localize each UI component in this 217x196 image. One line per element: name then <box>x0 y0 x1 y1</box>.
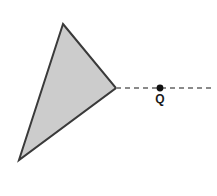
shaded-triangle <box>19 24 116 160</box>
figure-canvas: Q <box>0 0 217 196</box>
geometry-diagram <box>0 0 217 196</box>
point-q-dot <box>157 85 164 92</box>
point-q-label: Q <box>155 93 164 105</box>
